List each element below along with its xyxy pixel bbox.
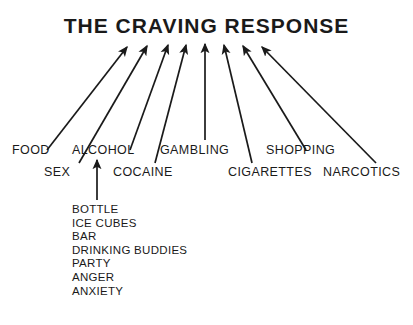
arrow-shopping — [243, 46, 306, 150]
craving-response-diagram: THE CRAVING RESPONSE FOOD ALCOHOL GAMBLI… — [0, 0, 413, 325]
trigger-label-narcotics: NARCOTICS — [323, 165, 400, 179]
trigger-label-food: FOOD — [12, 143, 50, 157]
alcohol-cue-item: ANXIETY — [72, 285, 187, 299]
trigger-label-cocaine: COCAINE — [113, 165, 173, 179]
alcohol-cue-item: PARTY — [72, 257, 187, 271]
arrow-food — [47, 47, 127, 150]
trigger-label-alcohol: ALCOHOL — [72, 143, 135, 157]
alcohol-cue-item: BAR — [72, 230, 187, 244]
trigger-label-sex: SEX — [44, 165, 70, 179]
trigger-label-gambling: GAMBLING — [160, 143, 229, 157]
trigger-label-cigarettes: CIGARETTES — [228, 165, 312, 179]
arrow-layer — [0, 0, 413, 325]
alcohol-cue-item: ICE CUBES — [72, 217, 187, 231]
alcohol-cue-item: ANGER — [72, 271, 187, 285]
alcohol-cue-list: BOTTLEICE CUBESBARDRINKING BUDDIESPARTYA… — [72, 203, 187, 298]
trigger-label-shopping: SHOPPING — [266, 143, 335, 157]
alcohol-cue-item: BOTTLE — [72, 203, 187, 217]
alcohol-cue-item: DRINKING BUDDIES — [72, 244, 187, 258]
